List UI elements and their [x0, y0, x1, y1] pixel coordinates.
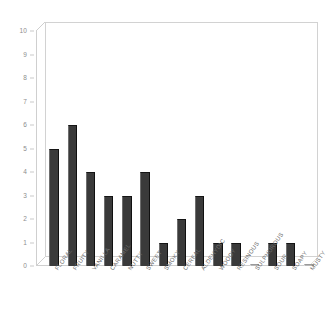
bar-slot — [209, 31, 227, 266]
y-axis-tick-label: 5 — [1, 145, 27, 152]
y-axis-tick-mark — [30, 31, 34, 32]
bar-slot — [63, 31, 81, 266]
bar-slot — [245, 31, 263, 266]
y-axis-tick-mark — [30, 148, 34, 149]
y-axis-tick-mark — [30, 242, 34, 243]
bar — [177, 219, 186, 266]
y-axis: 012345678910 — [0, 22, 36, 266]
y-axis-tick-label: 10 — [1, 28, 27, 35]
y-axis-tick-mark — [30, 125, 34, 126]
y-axis-tick-mark — [30, 266, 34, 267]
bar-slot — [100, 31, 118, 266]
y-axis-tick-label: 3 — [1, 192, 27, 199]
bar-slot — [136, 31, 154, 266]
y-axis-tick-mark — [30, 195, 34, 196]
y-axis-tick-mark — [30, 172, 34, 173]
bar-slot — [118, 31, 136, 266]
bar — [68, 125, 77, 266]
bars-container — [45, 31, 318, 266]
bar-slot — [300, 31, 318, 266]
y-axis-tick-label: 4 — [1, 169, 27, 176]
bar-slot — [81, 31, 99, 266]
y-axis-tick-label: 2 — [1, 216, 27, 223]
y-axis-tick-mark — [30, 101, 34, 102]
y-axis-tick-label: 1 — [1, 239, 27, 246]
y-axis-tick-mark — [30, 54, 34, 55]
y-axis-tick-label: 9 — [1, 51, 27, 58]
bar-chart: 012345678910 FLORALFRUITYVANILLACARAMELN… — [0, 0, 330, 326]
y-axis-tick-label: 0 — [1, 263, 27, 270]
bar-slot — [191, 31, 209, 266]
bar-slot — [282, 31, 300, 266]
bar-slot — [172, 31, 190, 266]
y-axis-tick-mark — [30, 219, 34, 220]
y-axis-tick-mark — [30, 78, 34, 79]
y-axis-tick-label: 7 — [1, 98, 27, 105]
bar-slot — [227, 31, 245, 266]
x-axis-labels: FLORALFRUITYVANILLACARAMELNUTTYSWEETSMOK… — [45, 268, 318, 326]
bar-slot — [154, 31, 172, 266]
bar — [49, 149, 58, 267]
y-axis-tick-label: 8 — [1, 75, 27, 82]
bar-slot — [45, 31, 63, 266]
y-axis-tick-label: 6 — [1, 122, 27, 129]
